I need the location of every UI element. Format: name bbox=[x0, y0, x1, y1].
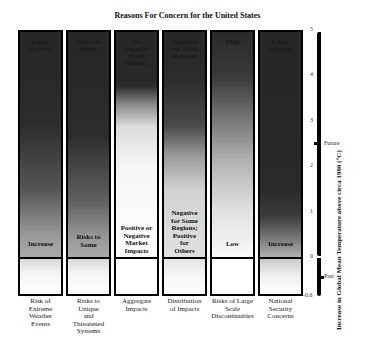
top-label: Large Increase bbox=[260, 39, 301, 53]
bottom-label: Positive or Negative Market Impacts bbox=[116, 225, 157, 255]
category-label: National Security Concerns bbox=[254, 298, 307, 321]
future-bar: Large Increase Increase bbox=[18, 30, 63, 259]
future-bar: High Low bbox=[210, 30, 255, 259]
category-label: Risk of Extreme Weather Events bbox=[14, 298, 67, 328]
future-bar: Large Increase Increase bbox=[258, 30, 303, 259]
y-axis-title: Increase in Global Mean Temperature abov… bbox=[335, 20, 343, 330]
past-bar bbox=[258, 258, 303, 296]
category-label: Risks to Unique and Threatened Systems bbox=[62, 298, 115, 336]
y-tick-3: 3 bbox=[310, 117, 313, 123]
y-tick-0: 0 bbox=[310, 253, 313, 259]
y-tick-2: 2 bbox=[310, 162, 313, 168]
top-label: High bbox=[212, 39, 253, 46]
category-label: Aggregate Impacts bbox=[110, 298, 163, 313]
bottom-label: Increase bbox=[20, 241, 61, 249]
top-label: Risks to Many bbox=[68, 39, 109, 53]
bottom-label: Low bbox=[212, 241, 253, 249]
future-bar: Risks to Many Risks to Some bbox=[66, 30, 111, 259]
bottom-label: Increase bbox=[260, 241, 301, 249]
past-bar bbox=[114, 258, 159, 296]
y-tick-1: 1 bbox=[310, 208, 313, 214]
bottom-label: Negative for Some Regions; Positive for … bbox=[164, 210, 205, 255]
past-label: Past bbox=[324, 273, 334, 279]
top-label: Net Negative in All Metrics bbox=[116, 39, 157, 67]
y-tick-4: 4 bbox=[310, 71, 313, 77]
past-bar bbox=[162, 258, 207, 296]
chart-title: Reasons For Concern for the United State… bbox=[0, 11, 375, 20]
past-bar bbox=[66, 258, 111, 296]
y-tick-5: 5 bbox=[310, 26, 313, 32]
past-bar bbox=[18, 258, 63, 296]
top-label: Negative for Most Regions bbox=[164, 39, 205, 60]
top-label: Large Increase bbox=[20, 39, 61, 53]
y-tick-neg06: -0.6 bbox=[303, 292, 313, 298]
future-bracket-point bbox=[314, 142, 318, 145]
bottom-label: Risks to Some bbox=[68, 234, 109, 249]
future-bar: Net Negative in All Metrics Positive or … bbox=[114, 30, 159, 259]
past-bar bbox=[210, 258, 255, 296]
future-bar: Negative for Most Regions Negative for S… bbox=[162, 30, 207, 259]
